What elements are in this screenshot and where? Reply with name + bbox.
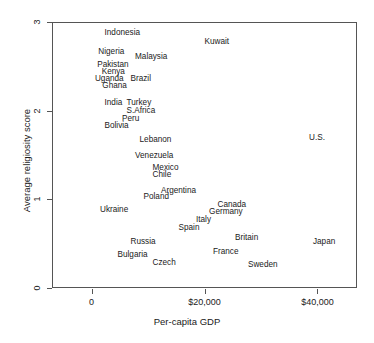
data-point-label: Czech: [153, 258, 176, 267]
data-point-label: Germany: [209, 207, 243, 216]
x-tick-mark: [317, 289, 318, 294]
x-axis-title: Per-capita GDP: [0, 316, 374, 327]
data-point-label: Nigeria: [98, 47, 124, 56]
y-tick-mark: [47, 22, 52, 23]
y-axis-title: Average religiosity score: [21, 81, 32, 241]
y-tick-label: 3: [32, 15, 42, 29]
y-tick-mark: [47, 111, 52, 112]
data-point-label: France: [213, 247, 238, 256]
scatter-plot-figure: Average religiosity score Per-capita GDP…: [0, 0, 374, 343]
y-tick-mark: [47, 288, 52, 289]
y-tick-label: 2: [32, 104, 42, 118]
x-tick-label: $20,000: [175, 297, 235, 307]
data-point-label: Russia: [131, 237, 156, 246]
x-tick-label: 0: [62, 297, 122, 307]
data-point-label: Malaysia: [135, 52, 167, 61]
data-point-label: Poland: [144, 192, 170, 201]
data-point-label: Lebanon: [140, 135, 172, 144]
data-point-label: Indonesia: [105, 28, 141, 37]
data-point-label: Brazil: [131, 74, 151, 83]
y-tick-label: 0: [32, 281, 42, 295]
data-point-label: Kuwait: [205, 37, 230, 46]
x-tick-mark: [205, 289, 206, 294]
data-point-label: Bolivia: [105, 121, 129, 130]
data-point-label: Bulgaria: [118, 250, 148, 259]
y-tick-mark: [47, 199, 52, 200]
data-point-label: India: [105, 98, 123, 107]
data-point-label: Venezuela: [135, 151, 173, 160]
data-point-label: Japan: [313, 237, 335, 246]
data-point-label: Sweden: [248, 260, 278, 269]
data-point-label: Spain: [179, 223, 200, 232]
x-tick-mark: [92, 289, 93, 294]
data-point-label: Ghana: [102, 81, 127, 90]
x-tick-label: $40,000: [287, 297, 347, 307]
data-point-label: Britain: [235, 233, 258, 242]
data-point-label: Ukraine: [100, 205, 128, 214]
data-point-label: U.S.: [309, 133, 325, 142]
y-tick-label: 1: [32, 192, 42, 206]
data-point-label: Chile: [153, 170, 172, 179]
